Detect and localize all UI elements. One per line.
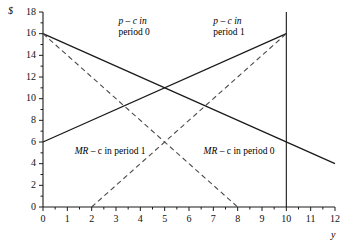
series-group bbox=[43, 12, 335, 207]
x-tick-label: 4 bbox=[130, 213, 150, 224]
annotation-pc-period1: p – c in period 1 bbox=[213, 16, 244, 38]
x-axis-title: y bbox=[331, 229, 335, 240]
annotation-pc-period1-line1: p – c in bbox=[213, 16, 241, 26]
y-tick-label: 8 bbox=[14, 114, 36, 125]
x-tick-label: 12 bbox=[325, 213, 345, 224]
annotation-pc-period0-line1: p – c in bbox=[118, 16, 146, 26]
y-axis-title: $ bbox=[8, 5, 13, 16]
x-tick-label: 0 bbox=[33, 213, 53, 224]
y-tick-label: 0 bbox=[14, 201, 36, 212]
y-tick-label: 6 bbox=[14, 136, 36, 147]
y-tick-label: 12 bbox=[14, 71, 36, 82]
x-tick-label: 2 bbox=[82, 213, 102, 224]
x-tick-label: 11 bbox=[301, 213, 321, 224]
y-tick-label: 14 bbox=[14, 49, 36, 60]
x-tick-label: 6 bbox=[179, 213, 199, 224]
annotation-mr-period1: MR – c in period 1 bbox=[75, 146, 146, 157]
y-tick-label: 10 bbox=[14, 92, 36, 103]
annotation-mr-period0-prefix: MR bbox=[204, 146, 218, 156]
x-tick-label: 3 bbox=[106, 213, 126, 224]
series-line-2 bbox=[43, 34, 238, 207]
annotation-mr-period1-rest: – c in period 1 bbox=[88, 146, 145, 156]
axes-group bbox=[39, 12, 335, 211]
annotation-mr-period0: MR – c in period 0 bbox=[204, 146, 275, 157]
x-tick-label: 5 bbox=[155, 213, 175, 224]
y-tick-label: 18 bbox=[14, 6, 36, 17]
annotation-mr-period0-rest: – c in period 0 bbox=[217, 146, 274, 156]
y-tick-label: 2 bbox=[14, 179, 36, 190]
x-tick-label: 9 bbox=[252, 213, 272, 224]
x-tick-label: 8 bbox=[228, 213, 248, 224]
chart-figure: $ y 0246810121416180123456789101112 p – … bbox=[0, 0, 356, 251]
y-tick-label: 16 bbox=[14, 27, 36, 38]
x-tick-label: 1 bbox=[57, 213, 77, 224]
x-tick-label: 10 bbox=[276, 213, 296, 224]
x-tick-label: 7 bbox=[203, 213, 223, 224]
annotation-pc-period0-line2: period 0 bbox=[118, 27, 149, 37]
series-line-0 bbox=[43, 34, 335, 164]
y-tick-label: 4 bbox=[14, 157, 36, 168]
annotation-pc-period1-line2: period 1 bbox=[213, 27, 244, 37]
annotation-mr-period1-prefix: MR bbox=[75, 146, 89, 156]
series-line-3 bbox=[92, 34, 287, 207]
annotation-pc-period0: p – c in period 0 bbox=[118, 16, 149, 38]
